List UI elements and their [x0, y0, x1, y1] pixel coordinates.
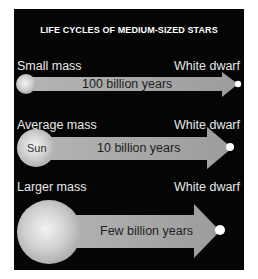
duration-average-mass: 10 billion years: [97, 142, 180, 155]
white-dwarf-dot-3: [215, 225, 225, 235]
mass-label-larger: Larger mass: [17, 181, 86, 194]
end-label-3: White dwarf: [174, 181, 240, 194]
diagram-panel: LIFE CYCLES OF MEDIUM-SIZED STARS: [14, 9, 244, 270]
star-larger-mass: [17, 200, 81, 264]
end-label-1: White dwarf: [174, 60, 240, 73]
sun-label: Sun: [27, 143, 47, 154]
mass-label-average: Average mass: [17, 119, 97, 132]
end-label-2: White dwarf: [174, 119, 240, 132]
star-small-mass: [16, 74, 36, 94]
mass-label-small: Small mass: [17, 60, 82, 73]
white-dwarf-dot-1: [235, 81, 241, 87]
duration-larger-mass: Few billion years: [100, 225, 193, 238]
duration-small-mass: 100 billion years: [82, 78, 172, 91]
white-dwarf-dot-2: [226, 143, 234, 151]
